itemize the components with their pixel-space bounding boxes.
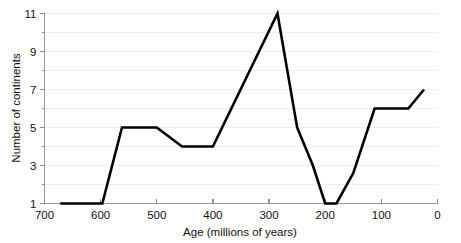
chart-canvas: 1357911 7006005004003002001000 Age (mill… [0,0,461,243]
y-axis-tick-label: 5 [30,122,36,134]
x-axis-tick-label: 300 [259,209,278,221]
y-axis-tick-label: 7 [30,84,36,96]
y-axis-tick-label: 11 [25,8,37,20]
x-axis-tick-label: 600 [91,209,110,221]
x-axis-tick-label: 700 [35,209,54,221]
y-axis-tick-label: 3 [30,160,36,172]
y-axis-title: Number of continents [10,53,22,163]
x-axis-tick-label: 100 [372,209,391,221]
x-axis-tick-label: 200 [316,209,335,221]
x-axis-tick-label: 400 [203,209,222,221]
x-axis-title: Age (millions of years) [183,226,297,238]
y-axis-tick-label: 9 [30,46,36,58]
x-axis-tick-label: 0 [434,209,440,221]
continents-vs-age-line-chart: 1357911 7006005004003002001000 Age (mill… [0,0,461,243]
x-axis-tick-label: 500 [147,209,166,221]
y-axis-tick-labels-group: 1357911 [25,8,37,210]
x-axis-tick-labels-group: 7006005004003002001000 [35,209,441,221]
